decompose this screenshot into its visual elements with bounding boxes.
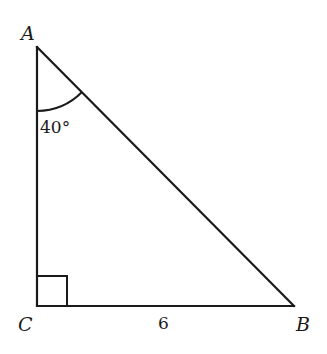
right-angle-marker xyxy=(37,276,67,306)
vertex-label-b: B xyxy=(295,313,310,335)
vertex-label-c: C xyxy=(18,313,33,335)
triangle-diagram: A C B 40° 6 xyxy=(0,0,327,354)
angle-arc-a xyxy=(37,92,82,111)
angle-label: 40° xyxy=(40,117,70,137)
vertex-label-a: A xyxy=(19,22,35,44)
side-length-label: 6 xyxy=(158,313,169,333)
side-ab-hypotenuse xyxy=(37,47,294,306)
